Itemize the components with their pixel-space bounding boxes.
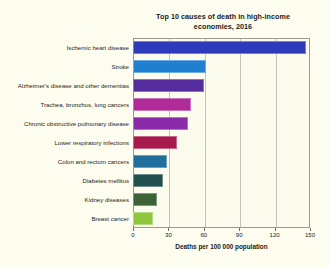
bar-row[interactable] — [133, 171, 163, 190]
bar-row[interactable] — [133, 133, 177, 152]
tick-label: 30 — [165, 231, 172, 238]
bar-row[interactable] — [133, 190, 157, 209]
bar-row[interactable] — [133, 76, 204, 95]
bar[interactable] — [133, 60, 206, 73]
bar[interactable] — [133, 41, 306, 54]
bar[interactable] — [133, 98, 191, 111]
chart-figure: Top 10 causes of death in high-income ec… — [0, 0, 329, 268]
bar-row[interactable] — [133, 114, 188, 133]
category-label: Stroke — [0, 63, 129, 71]
bar[interactable] — [133, 117, 188, 130]
bar[interactable] — [133, 79, 204, 92]
chart-title-line-2: economies, 2016 — [133, 22, 313, 32]
category-label: Diabetes mellitus — [0, 177, 129, 185]
category-label: Alzheimer's disease and other dementias — [0, 82, 129, 90]
bar[interactable] — [133, 193, 157, 206]
bars-layer — [133, 38, 310, 228]
category-axis-labels: Ischemic heart diseaseStrokeAlzheimer's … — [0, 38, 129, 228]
x-axis-title: Deaths per 100 000 population — [133, 243, 310, 250]
tick-label: 120 — [270, 231, 280, 238]
category-label: Breast cancer — [0, 215, 129, 223]
bar[interactable] — [133, 155, 167, 168]
category-label: Trachea, bronchus, lung cancers — [0, 101, 129, 109]
tick-label: 150 — [305, 231, 315, 238]
bar[interactable] — [133, 136, 177, 149]
chart-title: Top 10 causes of death in high-income ec… — [133, 12, 313, 31]
category-label: Ischemic heart disease — [0, 44, 129, 52]
bar[interactable] — [133, 212, 153, 225]
bar-row[interactable] — [133, 152, 167, 171]
bar-row[interactable] — [133, 57, 206, 76]
bar[interactable] — [133, 174, 163, 187]
tick-label: 90 — [236, 231, 243, 238]
value-axis-ticks: 0306090120150 — [133, 229, 310, 241]
bar-row[interactable] — [133, 38, 306, 57]
category-label: Colon and rectum cancers — [0, 158, 129, 166]
category-label: Chronic obstructive pulmonary disease — [0, 120, 129, 128]
category-label: Lower respiratory infections — [0, 139, 129, 147]
category-label: Kidney diseases — [0, 196, 129, 204]
bar-row[interactable] — [133, 209, 153, 228]
tick-label: 0 — [131, 231, 134, 238]
chart-title-line-1: Top 10 causes of death in high-income — [133, 12, 313, 22]
bar-row[interactable] — [133, 95, 191, 114]
tick-label: 60 — [200, 231, 207, 238]
